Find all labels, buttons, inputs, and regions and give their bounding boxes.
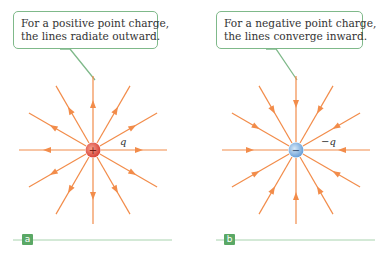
callout-pointer: [266, 49, 297, 80]
field-diagram: + − q −q: [0, 0, 380, 255]
charge-label-q: q: [120, 136, 126, 147]
charge-sign: −: [292, 145, 300, 156]
panel-label-b: b: [224, 234, 235, 245]
charge-sign: +: [89, 145, 97, 156]
panel-label-a: a: [22, 234, 33, 245]
callout-pointer: [60, 49, 95, 80]
charge-label-neg-q: −q: [321, 136, 336, 147]
